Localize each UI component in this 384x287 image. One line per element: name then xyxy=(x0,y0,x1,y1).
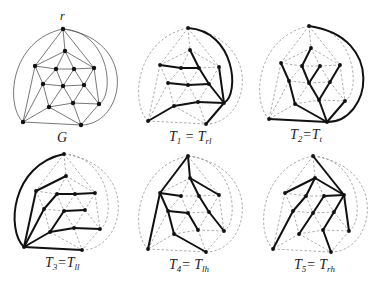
node-f xyxy=(291,209,295,213)
non-tree-edge xyxy=(160,28,188,65)
non-tree-edge xyxy=(181,50,190,68)
node-g xyxy=(62,209,66,213)
graph-edge xyxy=(35,66,43,84)
non-tree-edge xyxy=(168,196,181,211)
tree-edge xyxy=(323,230,331,252)
non-tree-edge xyxy=(148,65,160,121)
tree-edge xyxy=(323,212,334,230)
tree-edge xyxy=(168,211,174,234)
non-tree-edge xyxy=(199,67,219,68)
panel-T5-tree: T5= Trh xyxy=(264,154,368,274)
node-b xyxy=(34,189,38,193)
non-tree-edge xyxy=(309,82,330,83)
node-c xyxy=(179,66,183,70)
panel-T3-tree: T3=Tll xyxy=(15,152,119,272)
graph-edge xyxy=(35,29,63,66)
non-tree-edge xyxy=(160,50,190,65)
tree-label-T5: T5= Trh xyxy=(294,257,335,274)
panel-T1-tree: T1 = Trl xyxy=(139,26,243,146)
graph-edge xyxy=(43,69,56,84)
non-tree-edge xyxy=(64,154,66,176)
node-e xyxy=(93,191,97,195)
node-i xyxy=(297,232,301,236)
node-e xyxy=(217,193,221,197)
non-tree-edge xyxy=(198,212,209,230)
node-f xyxy=(287,79,291,83)
tree-edge xyxy=(324,195,344,196)
non-tree-edge xyxy=(323,230,349,231)
non-tree-edge xyxy=(64,154,95,193)
node-d xyxy=(318,64,322,68)
non-tree-outer-edge xyxy=(188,156,232,231)
tree-edge xyxy=(199,68,209,84)
tree-label-T1: T1 = Trl xyxy=(169,129,212,146)
non-tree-edge xyxy=(289,81,309,83)
tree-edge xyxy=(74,228,100,229)
non-tree-edge xyxy=(188,212,209,213)
non-tree-edge xyxy=(209,195,219,212)
node-e xyxy=(338,63,342,67)
tree-outer-edge xyxy=(15,154,64,247)
non-tree-edge xyxy=(281,26,309,63)
node-j xyxy=(71,101,75,105)
node-i xyxy=(47,105,51,109)
tree-label-T2: T2=Tt xyxy=(290,127,323,144)
non-tree-edge xyxy=(95,193,100,229)
panel-T4-tree: T4= Tlh xyxy=(139,154,243,274)
non-tree-outer-edge xyxy=(309,26,353,101)
non-tree-edge xyxy=(281,63,302,66)
non-tree-outer-edge xyxy=(313,156,357,231)
tree-edge xyxy=(289,81,295,104)
non-tree-edge xyxy=(273,249,331,252)
tree-edge xyxy=(188,156,190,178)
graph-edge xyxy=(63,29,94,68)
tree-edge xyxy=(293,196,306,211)
non-tree-edge xyxy=(198,230,224,231)
non-tree-edge xyxy=(75,194,85,210)
non-tree-edge xyxy=(324,196,334,212)
non-tree-outer-edge xyxy=(188,156,242,252)
non-tree-edge xyxy=(188,28,219,67)
graph-outer-edge xyxy=(63,29,117,125)
node-k xyxy=(222,101,226,105)
graph-edge xyxy=(81,104,99,125)
graph-edge xyxy=(49,107,81,125)
tree-edge xyxy=(24,247,82,250)
non-tree-edge xyxy=(174,85,188,106)
tree-edge xyxy=(24,191,36,247)
node-h xyxy=(332,210,336,214)
non-tree-edge xyxy=(57,194,64,211)
node-h xyxy=(328,80,332,84)
node-BL xyxy=(267,117,271,121)
graph-edge xyxy=(84,68,94,85)
non-tree-edge xyxy=(269,104,295,119)
tree-edge xyxy=(299,213,313,234)
tree-edge xyxy=(206,103,224,124)
node-g xyxy=(311,211,315,215)
non-tree-edge xyxy=(148,121,206,124)
node-a xyxy=(188,48,192,52)
non-tree-edge xyxy=(174,230,198,234)
tree-outer-edge xyxy=(309,26,363,122)
non-tree-edge xyxy=(188,85,198,102)
node-BR xyxy=(80,248,84,252)
node-j xyxy=(317,98,321,102)
non-tree-edge xyxy=(181,178,190,196)
node-b xyxy=(279,61,283,65)
non-tree-edge xyxy=(331,231,349,252)
tree-edge xyxy=(199,196,209,212)
node-r xyxy=(61,27,65,31)
tree-edge xyxy=(319,82,330,100)
graph-edge xyxy=(73,103,81,125)
node-g xyxy=(307,81,311,85)
non-tree-edge xyxy=(269,63,281,119)
node-d xyxy=(197,194,201,198)
node-g xyxy=(61,84,65,88)
tree-edge xyxy=(174,102,198,106)
node-h xyxy=(207,82,211,86)
node-j xyxy=(321,228,325,232)
non-tree-edge xyxy=(36,191,44,209)
non-tree-edge xyxy=(181,196,188,213)
non-tree-edge xyxy=(44,209,50,232)
tree-edge xyxy=(174,234,206,252)
